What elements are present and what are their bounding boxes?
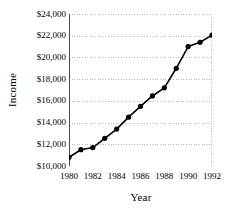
income-line-chart: Income $10,000$12,000$14,000$16,000$18,0… <box>0 0 241 214</box>
y-tick-label: $22,000 <box>20 31 66 40</box>
data-point-1987 <box>150 93 155 98</box>
y-tick-label: $18,000 <box>20 75 66 84</box>
x-tick-label: 1988 <box>155 172 173 181</box>
gridlines <box>69 15 212 167</box>
data-point-1985 <box>126 115 131 120</box>
x-tick-label: 1980 <box>60 172 78 181</box>
data-point-1991 <box>197 40 202 45</box>
axis-tickmarks <box>69 15 212 167</box>
y-tick-label: $20,000 <box>20 53 66 62</box>
data-point-1982 <box>90 145 95 150</box>
y-tick-label: $14,000 <box>20 118 66 127</box>
y-tick-label: $12,000 <box>20 140 66 149</box>
x-tick-label: 1992 <box>203 172 221 181</box>
income-series-markers <box>69 33 212 160</box>
data-point-1988 <box>162 85 167 90</box>
y-axis-tick-labels: $10,000$12,000$14,000$16,000$18,000$20,0… <box>20 0 66 180</box>
x-axis-title: Year <box>69 191 213 203</box>
data-point-1983 <box>102 136 107 141</box>
y-tick-label: $24,000 <box>20 10 66 19</box>
income-series-line <box>69 35 212 157</box>
plot-svg <box>69 14 212 166</box>
x-tick-label: 1986 <box>132 172 150 181</box>
x-tick-label: 1982 <box>84 172 102 181</box>
data-point-1981 <box>78 147 83 152</box>
y-tick-label: $10,000 <box>20 162 66 171</box>
plot-area <box>69 14 212 166</box>
data-point-1984 <box>114 126 119 131</box>
x-tick-label: 1984 <box>108 172 126 181</box>
data-point-1986 <box>138 104 143 109</box>
data-point-1989 <box>174 66 179 71</box>
y-tick-label: $16,000 <box>20 96 66 105</box>
data-point-1990 <box>186 44 191 49</box>
x-axis-title-text: Year <box>130 191 151 203</box>
x-axis-tick-labels: 1980198219841986198819901992 <box>69 172 213 184</box>
x-tick-label: 1990 <box>179 172 197 181</box>
y-axis-title-text: Income <box>6 73 18 107</box>
